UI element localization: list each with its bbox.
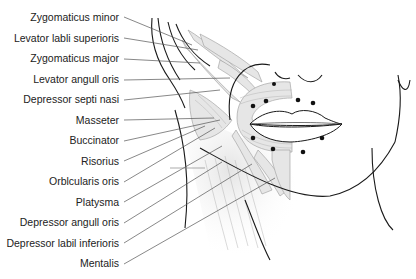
injection-dot xyxy=(301,150,306,155)
injection-dot xyxy=(296,98,301,103)
injection-dot xyxy=(311,101,316,106)
injection-dot xyxy=(320,136,325,141)
injection-dot xyxy=(271,147,276,152)
injection-dot xyxy=(272,82,276,86)
injection-dot xyxy=(251,104,256,109)
face-illustration xyxy=(0,0,416,279)
injection-dot xyxy=(251,136,256,141)
injection-dot xyxy=(264,99,269,104)
leader-zygomaticus-major xyxy=(124,59,200,63)
